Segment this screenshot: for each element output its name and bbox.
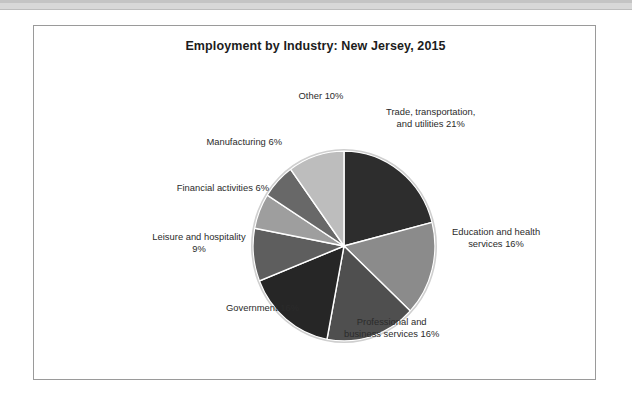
scanned-page: Employment by Industry: New Jersey, 2015… xyxy=(0,0,632,405)
slice-label-other: Other 10% xyxy=(256,90,386,102)
slice-label-line: Trade, transportation, xyxy=(386,106,475,118)
pie-chart-svg xyxy=(34,26,597,381)
slice-label-line: Financial activities 6% xyxy=(134,182,269,194)
slice-label-line: 9% xyxy=(129,243,269,255)
pie-chart: Trade, transportation, and utilities 21%… xyxy=(34,26,597,381)
slice-label-line: and utilities 21% xyxy=(386,118,475,130)
slice-label-line: Other 10% xyxy=(256,90,386,102)
slice-label-government: Government 16% xyxy=(174,302,299,314)
slice-label-trade-transportation-utilities: Trade, transportation, and utilities 21% xyxy=(386,106,475,130)
slice-label-line: Leisure and hospitality xyxy=(129,231,269,243)
slice-label-line: Education and health xyxy=(452,226,540,238)
slice-label-line: services 16% xyxy=(452,238,540,250)
slice-label-line: Manufacturing 6% xyxy=(152,136,282,148)
slice-label-professional-business-services: Professional and business services 16% xyxy=(344,316,439,340)
slice-label-education-health-services: Education and health services 16% xyxy=(452,226,540,250)
slice-label-line: Professional and xyxy=(344,316,439,328)
slice-label-line: business services 16% xyxy=(344,328,439,340)
figure-frame: Employment by Industry: New Jersey, 2015… xyxy=(33,25,596,380)
slice-label-financial-activities: Financial activities 6% xyxy=(134,182,269,194)
page-top-edge-artifact xyxy=(0,0,632,10)
slice-label-line: Government 16% xyxy=(174,302,299,314)
slice-label-leisure-hospitality: Leisure and hospitality 9% xyxy=(129,231,269,255)
slice-label-manufacturing: Manufacturing 6% xyxy=(152,136,282,148)
